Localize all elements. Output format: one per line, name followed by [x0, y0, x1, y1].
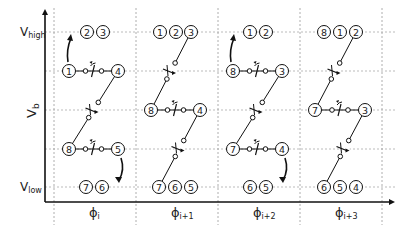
svg-text:6: 6 — [321, 182, 327, 193]
switched-capacitor-phase-diagram: VhighVlowVbϕiϕi+1ϕi+2ϕi+3 23148576123847… — [0, 0, 409, 228]
svg-text:8: 8 — [148, 105, 154, 116]
node-8: 8 — [63, 143, 76, 156]
level-label-high: Vhigh — [20, 25, 46, 40]
arrow-down-icon — [283, 158, 287, 180]
node-5: 5 — [185, 181, 198, 194]
svg-text:7: 7 — [83, 182, 89, 193]
node-8: 8 — [227, 65, 240, 78]
node-7: 7 — [80, 181, 93, 194]
node-6: 6 — [318, 181, 331, 194]
node-2: 2 — [260, 26, 273, 39]
svg-text:2: 2 — [173, 27, 179, 38]
node-6: 6 — [244, 181, 257, 194]
svg-text:1: 1 — [247, 27, 253, 38]
node-4: 4 — [276, 143, 289, 156]
phase-label: ϕi+1 — [171, 205, 194, 221]
node-6: 6 — [96, 181, 109, 194]
node-2: 2 — [81, 26, 94, 39]
node-5: 5 — [334, 181, 347, 194]
phase-panels: 23148576123847651283746581273654 — [63, 26, 372, 194]
svg-text:1: 1 — [337, 27, 343, 38]
svg-text:6: 6 — [172, 182, 178, 193]
arrow-up-icon — [67, 38, 71, 62]
svg-text:7: 7 — [156, 182, 162, 193]
node-3: 3 — [276, 65, 289, 78]
node-1: 1 — [63, 65, 76, 78]
node-3: 3 — [185, 26, 198, 39]
panel-phase-2: 12837465 — [227, 26, 289, 194]
svg-text:1: 1 — [157, 27, 163, 38]
svg-text:8: 8 — [230, 66, 236, 77]
node-6: 6 — [169, 181, 182, 194]
svg-text:5: 5 — [115, 144, 121, 155]
svg-text:7: 7 — [230, 144, 236, 155]
svg-text:7: 7 — [312, 105, 318, 116]
node-4: 4 — [112, 65, 125, 78]
node-2: 2 — [170, 26, 183, 39]
level-label-low: Vlow — [20, 180, 42, 195]
panel-phase-3: 81273654 — [309, 26, 372, 194]
phase-label: ϕi — [89, 205, 100, 221]
svg-text:3: 3 — [100, 27, 106, 38]
node-7: 7 — [227, 143, 240, 156]
svg-text:5: 5 — [263, 182, 269, 193]
node-2: 2 — [350, 26, 363, 39]
svg-text:2: 2 — [353, 27, 359, 38]
node-7: 7 — [309, 104, 322, 117]
node-5: 5 — [112, 143, 125, 156]
svg-text:3: 3 — [362, 105, 368, 116]
node-8: 8 — [318, 26, 331, 39]
node-3: 3 — [97, 26, 110, 39]
panel-phase-0: 23148576 — [63, 26, 125, 194]
svg-text:5: 5 — [337, 182, 343, 193]
phase-label: ϕi+2 — [253, 205, 276, 221]
svg-text:4: 4 — [115, 66, 121, 77]
node-3: 3 — [359, 104, 372, 117]
node-4: 4 — [194, 104, 207, 117]
node-1: 1 — [244, 26, 257, 39]
svg-text:8: 8 — [321, 27, 327, 38]
node-1: 1 — [154, 26, 167, 39]
svg-text:2: 2 — [84, 27, 90, 38]
svg-text:2: 2 — [263, 27, 269, 38]
svg-text:6: 6 — [247, 182, 253, 193]
y-axis-label: Vb — [24, 103, 41, 118]
arrow-up-icon — [230, 38, 234, 62]
arrow-down-icon — [119, 158, 123, 180]
svg-text:3: 3 — [188, 27, 194, 38]
phase-label: ϕi+3 — [335, 205, 358, 221]
svg-text:8: 8 — [66, 144, 72, 155]
node-5: 5 — [260, 181, 273, 194]
node-1: 1 — [334, 26, 347, 39]
svg-text:4: 4 — [279, 144, 285, 155]
panel-phase-1: 12384765 — [145, 26, 207, 194]
node-7: 7 — [153, 181, 166, 194]
svg-text:4: 4 — [353, 182, 359, 193]
node-4: 4 — [350, 181, 363, 194]
svg-text:1: 1 — [66, 66, 72, 77]
svg-text:6: 6 — [99, 182, 105, 193]
svg-text:4: 4 — [197, 105, 203, 116]
node-8: 8 — [145, 104, 158, 117]
svg-text:5: 5 — [188, 182, 194, 193]
svg-text:3: 3 — [279, 66, 285, 77]
